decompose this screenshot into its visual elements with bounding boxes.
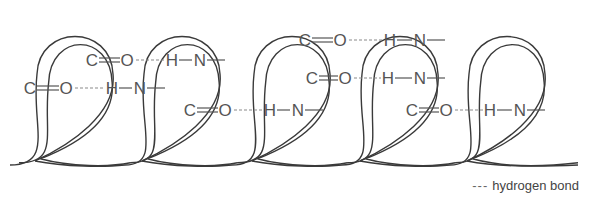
oxygen-atom: O xyxy=(59,79,72,98)
hydrogen-bond-dash-symbol: --- xyxy=(472,178,488,193)
oxygen-atom: O xyxy=(338,69,351,88)
hydrogen-atom: H xyxy=(264,101,276,120)
hydrogen-atom: H xyxy=(106,79,118,98)
hydrogen-atom: H xyxy=(166,51,178,70)
oxygen-atom: O xyxy=(439,101,452,120)
nitrogen-atom: N xyxy=(292,101,304,120)
hydrogen-atom: H xyxy=(382,69,394,88)
oxygen-atom: O xyxy=(333,31,346,50)
nitrogen-atom: N xyxy=(514,101,526,120)
carbon-atom: C xyxy=(406,101,418,120)
alpha-helix-diagram: COHNCOHNCOHNCOHNCOHNCOHN xyxy=(0,0,589,202)
legend-label: hydrogen bond xyxy=(492,178,579,193)
hydrogen-atom: H xyxy=(384,31,396,50)
hydrogen-atom: H xyxy=(484,101,496,120)
nitrogen-atom: N xyxy=(414,31,426,50)
legend: ---hydrogen bond xyxy=(472,178,579,193)
carbon-atom: C xyxy=(24,79,36,98)
nitrogen-atom: N xyxy=(194,51,206,70)
carbon-atom: C xyxy=(299,31,311,50)
peptide-bond-group: COHN xyxy=(299,31,445,50)
peptide-bond-group: COHN xyxy=(24,79,165,98)
hydrogen-bonds: COHNCOHNCOHNCOHNCOHNCOHN xyxy=(24,31,545,120)
carbon-atom: C xyxy=(86,51,98,70)
oxygen-atom: O xyxy=(120,51,133,70)
carbon-atom: C xyxy=(306,69,318,88)
oxygen-atom: O xyxy=(218,101,231,120)
carbon-atom: C xyxy=(184,101,196,120)
nitrogen-atom: N xyxy=(414,69,426,88)
helix-ribbon: COHNCOHNCOHNCOHNCOHNCOHN xyxy=(0,0,589,202)
nitrogen-atom: N xyxy=(134,79,146,98)
